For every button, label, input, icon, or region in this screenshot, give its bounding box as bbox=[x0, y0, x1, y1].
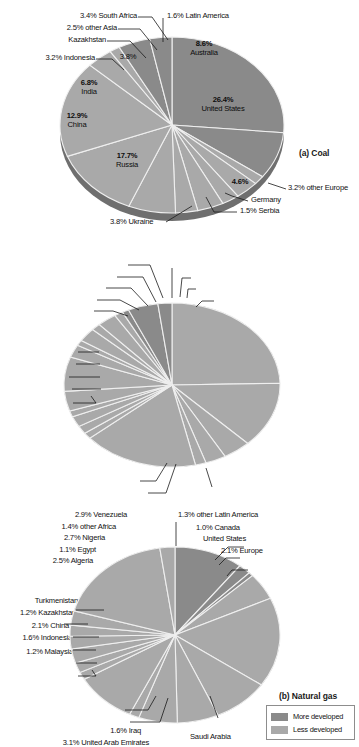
legend-item-more-developed: More developed bbox=[271, 710, 350, 723]
coal-india-name: India bbox=[81, 87, 96, 96]
coal-value-united-states: 26.4% United States bbox=[185, 96, 261, 114]
coal-us-pct: 26.4% bbox=[213, 95, 234, 104]
petroleum-slices bbox=[70, 547, 280, 723]
pie-slice-russia bbox=[172, 303, 280, 385]
coal-china-pct: 12.9% bbox=[67, 111, 88, 120]
coal-india-pct: 6.8% bbox=[81, 78, 98, 87]
coal-value-india: 6.8% India bbox=[68, 79, 110, 97]
coal-value-australia: 8.6% Australia bbox=[177, 40, 231, 58]
coal-australia-name: Australia bbox=[190, 48, 218, 57]
legend-swatch-less-developed bbox=[271, 726, 288, 734]
development-legend: More developed Less developed bbox=[266, 705, 355, 740]
coal-china-name: China bbox=[68, 120, 87, 129]
coal-label-indonesia: 3.2% Indonesia bbox=[0, 54, 95, 63]
coal-label-kazakhstan: Kazakhstan bbox=[0, 36, 106, 45]
coal-value-china: 12.9% China bbox=[54, 112, 100, 130]
coal-value-germany: 4.6% bbox=[222, 178, 258, 187]
gas-slices bbox=[64, 303, 280, 467]
legend-swatch-more-developed bbox=[271, 713, 288, 721]
legend-label-more-developed: More developed bbox=[293, 712, 343, 721]
figure-coal: (a) Coal 3.4% South Africa 2.5% other As… bbox=[0, 0, 359, 250]
figure-natural-gas: (b) Natural gas 2.9% Venezuela 1.4% othe… bbox=[0, 250, 359, 500]
coal-label-other-europe: 3.2% other Europe bbox=[288, 184, 348, 193]
coal-label-germany: Germany bbox=[251, 196, 281, 205]
coal-us-name: United States bbox=[202, 104, 245, 113]
gas-pie-svg bbox=[0, 250, 359, 500]
coal-caption: (a) Coal bbox=[299, 148, 329, 158]
coal-russia-pct: 17.7% bbox=[117, 151, 138, 160]
coal-label-serbia: 1.5% Serbia bbox=[240, 207, 279, 216]
legend-label-less-developed: Less developed bbox=[293, 725, 342, 734]
coal-label-other-asia: 2.5% other Asia bbox=[0, 24, 117, 33]
coal-label-south-africa: 3.4% South Africa bbox=[0, 12, 137, 21]
legend-item-less-developed: Less developed bbox=[271, 723, 350, 736]
coal-value-kazakhstan: 3.8% bbox=[110, 53, 146, 62]
coal-value-russia: 17.7% Russia bbox=[103, 152, 151, 170]
coal-russia-name: Russia bbox=[116, 160, 138, 169]
coal-label-latin-america: 1.6% Latin America bbox=[167, 12, 229, 21]
coal-label-ukraine: 3.8% Ukraine bbox=[110, 218, 153, 227]
coal-australia-pct: 8.6% bbox=[196, 39, 213, 48]
